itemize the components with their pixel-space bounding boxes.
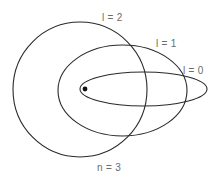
nucleus-dot [83, 87, 88, 92]
label-l0: l = 0 [183, 66, 204, 76]
orbit-diagram [0, 0, 218, 175]
label-l1: l = 1 [156, 39, 177, 49]
orbit-l1-ellipse [58, 45, 187, 136]
label-n3: n = 3 [97, 163, 121, 173]
label-l2: l = 2 [102, 13, 123, 23]
orbit-l0-ellipse [80, 72, 207, 106]
